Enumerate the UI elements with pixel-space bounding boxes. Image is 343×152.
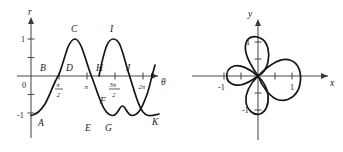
point-label-I: I [109, 24, 114, 34]
point-label-D: D [65, 63, 73, 73]
x-axis-arrow [321, 73, 328, 79]
svg-text:2: 2 [112, 91, 116, 98]
cartesian-point-labels: A B C D E F G H I J K [37, 24, 159, 133]
theta-tick-label-2pi: 2π [139, 83, 146, 90]
cartesian-plot-panel: A B C D E F G H I J K 1 -1 0 π 2 [0, 0, 180, 152]
point-label-F: F [99, 96, 106, 106]
r-theta-curve-tail [99, 39, 159, 116]
right-petal [258, 59, 301, 100]
r-theta-curve [31, 39, 155, 116]
cartesian-plot-svg: A B C D E F G H I J K 1 -1 0 π 2 [0, 0, 180, 152]
point-label-E: E [84, 123, 91, 133]
x-axis-label: x [329, 78, 335, 88]
y-tick-label-1: 1 [246, 38, 250, 47]
math-figure: A B C D E F G H I J K 1 -1 0 π 2 [0, 0, 343, 152]
x-tick-label-neg1: -1 [218, 83, 225, 92]
r-axis-arrow [28, 17, 34, 24]
r-tick-label-1: 1 [21, 35, 25, 44]
point-label-B: B [40, 63, 46, 73]
point-label-J: J [126, 63, 131, 73]
point-label-A: A [37, 118, 44, 128]
svg-text:π: π [56, 81, 60, 88]
polar-plot-panel: -1 1 1 -1 y x [180, 0, 343, 152]
origin-label: 0 [22, 81, 26, 90]
y-axis-arrow [255, 19, 261, 26]
point-label-C: C [71, 24, 78, 34]
theta-tick-label-pi: π [85, 83, 89, 90]
svg-text:2: 2 [57, 91, 61, 98]
y-tick-label-neg1: -1 [242, 106, 249, 115]
point-label-K: K [151, 117, 159, 127]
theta-tick-label-pi-over-2: π 2 [55, 81, 63, 98]
r-tick-label-neg1: -1 [17, 111, 24, 120]
point-label-G: G [105, 123, 112, 133]
x-tick-label-1: 1 [290, 83, 294, 92]
theta-axis-label: θ [161, 77, 166, 87]
svg-text:3π: 3π [109, 81, 117, 88]
point-label-H: H [95, 63, 104, 73]
theta-tick-label-3pi-over-2: 3π 2 [109, 81, 121, 98]
y-axis-label: y [247, 9, 253, 19]
r-axis-label: r [28, 7, 32, 17]
polar-plot-svg: -1 1 1 -1 y x [180, 0, 343, 152]
